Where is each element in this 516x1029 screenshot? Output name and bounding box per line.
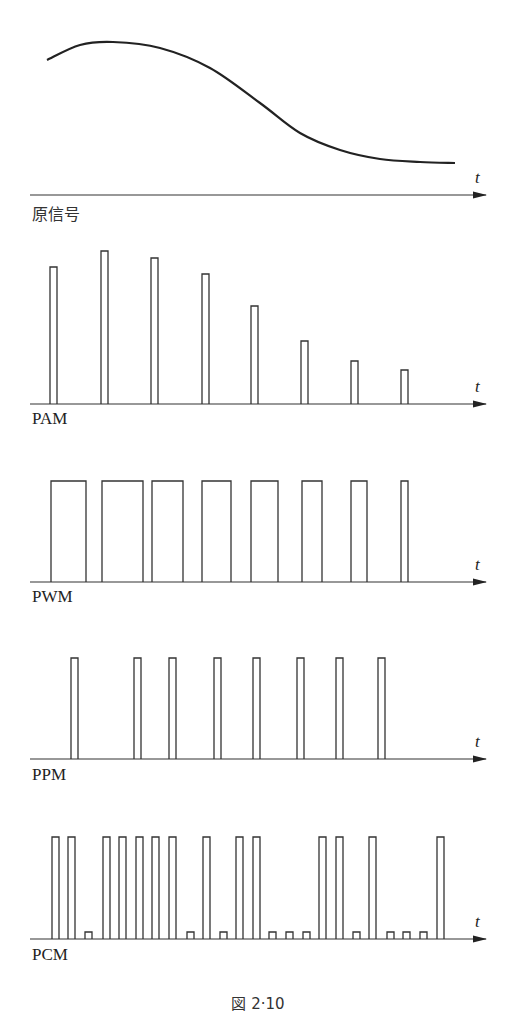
axis-label-t-pam: t: [475, 377, 480, 397]
panel-label-pcm: PCM: [32, 945, 68, 965]
panel-label-ppm: PPM: [32, 765, 66, 785]
pcm-pulse-one: [437, 837, 444, 939]
pwm-pulse: [351, 481, 367, 582]
pcm-pulse-zero: [420, 932, 427, 939]
axis-label-t-ppm: t: [475, 732, 480, 752]
pam-pulse: [202, 274, 209, 404]
figure-caption: 図 2·10: [0, 992, 516, 1013]
pwm-pulse: [51, 481, 86, 582]
pam-pulse: [151, 258, 158, 404]
pcm-pulse-one: [68, 837, 75, 939]
pwm-pulse: [302, 481, 322, 582]
pam-pulse: [301, 341, 308, 404]
ppm-pulse: [336, 658, 343, 759]
pcm-pulse-zero: [220, 932, 227, 939]
pcm-pulse-one: [336, 837, 343, 939]
pam-pulse: [101, 251, 108, 404]
pcm-pulse-zero: [387, 932, 394, 939]
panel-label-pwm: PWM: [32, 587, 73, 607]
ppm-pulse: [378, 658, 385, 759]
pcm-pulse-one: [253, 837, 260, 939]
axis-label-t-pwm: t: [475, 555, 480, 575]
ppm-pulse: [169, 658, 176, 759]
pwm-pulse: [401, 481, 408, 582]
pcm-pulse-zero: [269, 932, 276, 939]
pwm-pulse: [102, 481, 143, 582]
axis-label-t-pcm: t: [475, 912, 480, 932]
pwm-panel: [30, 481, 486, 582]
pwm-pulse: [152, 481, 183, 582]
pcm-pulse-one: [236, 837, 243, 939]
pam-pulse: [251, 306, 258, 404]
pam-pulse: [50, 267, 57, 404]
pcm-pulse-one: [103, 837, 110, 939]
pcm-pulse-one: [319, 837, 326, 939]
pam-pulse: [401, 370, 408, 404]
pcm-pulse-one: [136, 837, 143, 939]
pam-panel: [30, 251, 486, 404]
pcm-pulse-zero: [187, 932, 194, 939]
ppm-pulse: [71, 658, 78, 759]
pcm-pulse-one: [203, 837, 210, 939]
pwm-pulse: [202, 481, 231, 582]
pcm-pulse-one: [369, 837, 376, 939]
ppm-pulse: [297, 658, 304, 759]
pcm-pulse-one: [152, 837, 159, 939]
pcm-pulse-zero: [403, 932, 410, 939]
pam-pulse: [351, 361, 358, 404]
pcm-panel: [30, 837, 486, 939]
original-signal-curve: [47, 42, 455, 163]
ppm-pulse: [253, 658, 260, 759]
modulation-figure: [0, 0, 516, 1029]
axis-label-t-original: t: [475, 168, 480, 188]
ppm-panel: [30, 658, 486, 759]
ppm-pulse: [214, 658, 221, 759]
pcm-pulse-one: [119, 837, 126, 939]
pcm-pulse-zero: [85, 932, 92, 939]
pcm-pulse-zero: [303, 932, 310, 939]
pcm-pulse-zero: [286, 932, 293, 939]
pwm-pulse: [251, 481, 278, 582]
pcm-pulse-one: [169, 837, 176, 939]
panel-label-pam: PAM: [32, 409, 67, 429]
original-signal-panel: [30, 42, 486, 195]
pcm-pulse-one: [52, 837, 59, 939]
panel-label-original: 原信号: [32, 201, 80, 225]
pcm-pulse-zero: [353, 932, 360, 939]
ppm-pulse: [134, 658, 141, 759]
